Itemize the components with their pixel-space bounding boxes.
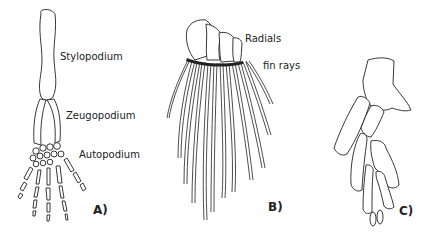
panel-label-c: C) — [399, 205, 413, 217]
label-fin-rays: fin rays — [263, 61, 300, 71]
distal-bones — [351, 133, 399, 226]
panel-label-b: B) — [268, 201, 283, 213]
label-radials: Radials — [245, 34, 281, 44]
label-autopodium: Autopodium — [79, 150, 140, 160]
panel-c-skeleton-drawing — [0, 0, 427, 237]
panel-label-a: A) — [93, 204, 108, 216]
label-zeugopodium: Zeugopodium — [66, 111, 135, 121]
label-stylopodium: Stylopodium — [60, 52, 123, 62]
limb-evolution-figure: Stylopodium Zeugopodium Autopodium A) Ra… — [0, 0, 427, 237]
